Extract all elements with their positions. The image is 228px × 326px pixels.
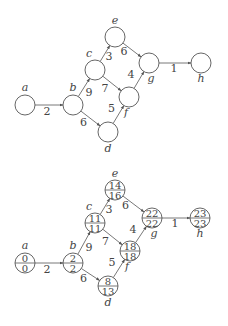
latest-time: 22 [146,218,159,229]
edge-weight: 4 [128,68,135,81]
latest-time: 2 [70,263,76,274]
node-circle [105,27,125,47]
edge-f-g [136,226,147,242]
node-label: a [22,239,29,252]
edge-weight: 4 [130,223,137,236]
edge-weight: 7 [102,235,109,248]
node-label: c [86,47,92,60]
edge-weight: 6 [122,199,129,212]
node-c: c1111 [85,200,105,234]
node-label: e [112,167,119,180]
node-circle [191,53,211,73]
node-label: b [69,239,76,252]
node-e: e1416 [105,167,125,201]
edge-weight: 5 [109,256,116,269]
latest-time: 11 [89,223,102,234]
node-label: f [123,106,130,119]
node-label: c [86,200,92,213]
edge-weight: 1 [171,62,178,75]
node-b: b [63,81,83,115]
node-circle [98,122,118,142]
edge-weight: 3 [106,50,113,63]
node-c: c [85,47,105,80]
node-h: h [191,53,211,85]
edge-weight: 9 [86,86,93,99]
latest-time: 18 [124,251,137,262]
node-label: e [112,14,119,27]
node-d: d [98,122,118,155]
node-a: a [15,81,35,115]
diagram-unlabeled: 296375641abcdefgh [15,14,211,155]
node-circle [15,95,35,115]
edge-weight: 5 [108,102,115,115]
edge-weight: 9 [86,241,93,254]
node-label: a [22,81,29,94]
node-h: h2323 [190,208,210,241]
diagram-with-times: 296375641a00b22c1111d813e1416f1818g2222h… [15,167,210,309]
node-f: f1818 [120,241,140,274]
node-circle [139,53,159,73]
node-label: f [124,260,131,273]
node-b: b22 [63,239,83,274]
node-label: h [196,227,203,240]
node-d: d813 [98,276,118,310]
node-label: d [104,296,111,309]
node-circle [85,60,105,80]
node-label: g [147,72,154,85]
latest-time: 16 [109,190,122,201]
node-a: a00 [15,239,35,274]
node-e: e [105,14,125,47]
edge-weight: 6 [80,116,87,129]
node-label: g [150,227,157,240]
network-diagrams: 296375641abcdefgh 296375641a00b22c1111d8… [0,0,228,326]
latest-time: 23 [194,218,207,229]
edge-weight: 6 [121,45,128,58]
node-f: f [119,87,139,119]
node-label: b [69,81,76,94]
node-label: h [197,72,204,85]
node-g: g [139,53,159,85]
edge-weight: 2 [44,105,51,118]
node-circle [63,95,83,115]
latest-time: 13 [102,286,115,297]
node-label: d [104,142,111,155]
edge-weight: 7 [102,82,109,95]
node-circle [119,87,139,107]
edge-f-g [134,72,144,89]
latest-time: 0 [22,263,28,274]
edge-weight: 3 [106,203,113,216]
edge-weight: 2 [44,263,51,276]
node-g: g2222 [142,208,162,241]
edge-weight: 1 [172,217,179,230]
edge-weight: 6 [80,272,87,285]
